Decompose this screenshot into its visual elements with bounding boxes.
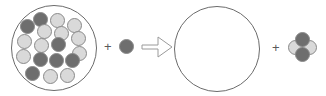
reactant-sphere-light bbox=[16, 49, 31, 64]
plus-operator-left: + bbox=[104, 40, 112, 53]
single-dark-sphere bbox=[119, 39, 134, 54]
reactant-sphere-dark bbox=[25, 66, 40, 81]
product-sphere-dark bbox=[295, 47, 310, 62]
reactant-sphere-light bbox=[43, 69, 58, 84]
product-sphere-dark bbox=[295, 32, 310, 47]
yields-arrow-icon bbox=[141, 35, 174, 59]
reactant-sphere-dark bbox=[65, 53, 80, 68]
reactant-sphere-light bbox=[60, 68, 75, 83]
reactant-sphere-dark bbox=[51, 37, 66, 52]
reaction-diagram: + + bbox=[0, 0, 326, 96]
reactant-sphere-light bbox=[34, 38, 49, 53]
reactant-sphere-dark bbox=[20, 19, 35, 34]
reactant-sphere-dark bbox=[33, 52, 48, 67]
reactant-sphere-light bbox=[17, 34, 32, 49]
product-container-circle bbox=[174, 6, 260, 92]
plus-operator-right: + bbox=[272, 41, 280, 54]
reactant-sphere-dark bbox=[49, 53, 64, 68]
yields-arrow bbox=[141, 35, 174, 59]
reactant-sphere-light bbox=[71, 31, 86, 46]
reactant-sphere-light bbox=[37, 24, 52, 39]
